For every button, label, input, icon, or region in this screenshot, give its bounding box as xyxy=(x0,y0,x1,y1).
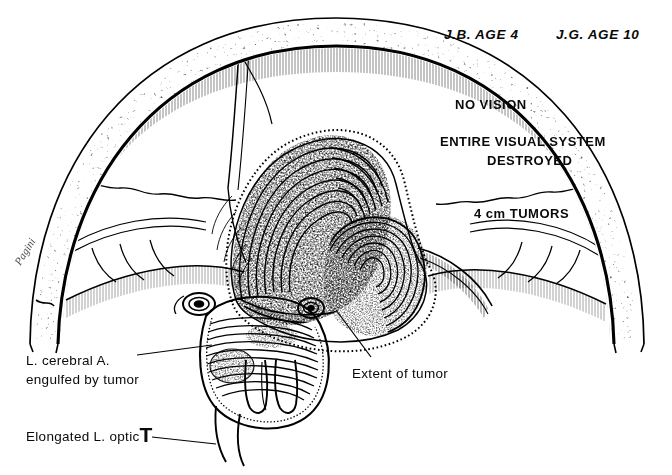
annotation-cerebral-artery-line1: L. cerebral A. xyxy=(26,354,110,369)
statement-visual-system-line1: ENTIRE VISUAL SYSTEM xyxy=(440,135,606,149)
annotation-optic-tract: Elongated L. opticT xyxy=(26,424,152,447)
statement-tumor-size: 4 cm TUMORS xyxy=(474,207,569,221)
statement-visual-system-line2: DESTROYED xyxy=(487,154,572,168)
anatomical-drawing xyxy=(0,0,672,475)
case-label-left: J.B. AGE 4 xyxy=(444,28,519,43)
case-label-right: J.G. AGE 10 xyxy=(556,28,639,43)
cranial-tumor-figure: J.B. AGE 4 J.G. AGE 10 NO VISION ENTIRE … xyxy=(0,0,672,475)
statement-no-vision: NO VISION xyxy=(455,98,527,112)
annotation-optic-tract-text: Elongated L. optic xyxy=(26,429,139,444)
annotation-cerebral-artery-line2: engulfed by tumor xyxy=(26,373,139,388)
annotation-extent-of-tumor: Extent of tumor xyxy=(352,367,448,382)
annotation-optic-tract-t: T xyxy=(139,423,152,446)
